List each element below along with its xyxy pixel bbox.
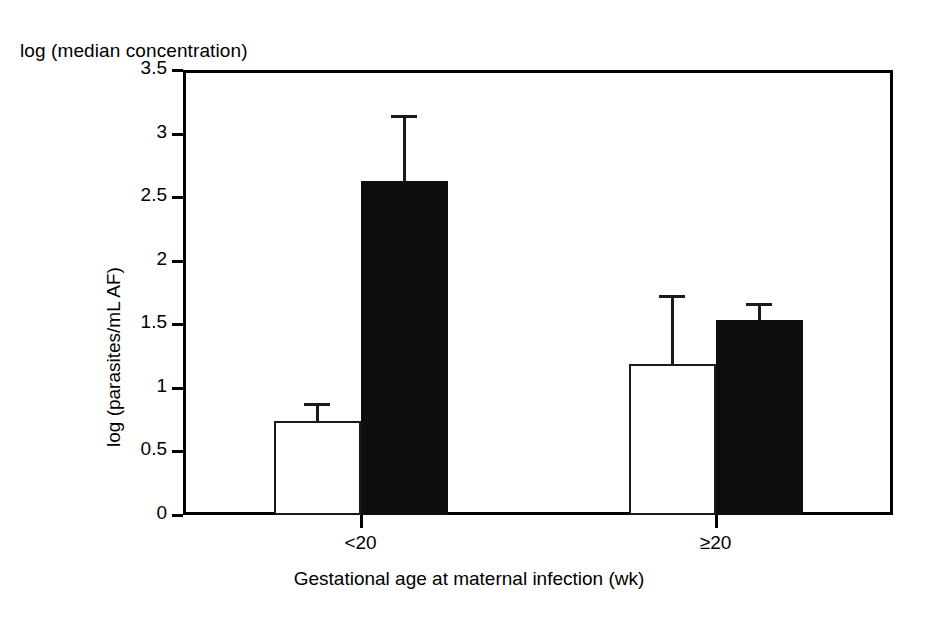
y-tick-label: 1	[156, 375, 167, 397]
y-tick-label: 2.5	[141, 184, 167, 206]
bar-open-<20	[274, 421, 361, 515]
bar-filled-<20	[361, 181, 448, 515]
y-axis-label: log (parasites/mL AF)	[103, 147, 125, 447]
errorbar-cap	[746, 303, 772, 306]
bar-open-≥20	[629, 364, 716, 515]
y-tick-mark	[172, 514, 183, 517]
errorbar-stem	[671, 295, 674, 364]
y-tick-mark	[172, 69, 183, 72]
y-tick-label: 3.5	[141, 57, 167, 79]
errorbar-cap	[659, 295, 685, 298]
bar-filled-≥20	[716, 320, 803, 515]
bar-chart-figure: log (median concentration) log (parasite…	[0, 0, 938, 620]
errorbar-cap	[304, 403, 330, 406]
y-tick-label: 0.5	[141, 438, 167, 460]
x-tick-label: ≥20	[700, 532, 732, 554]
y-tick-mark	[172, 260, 183, 263]
x-tick-label: <20	[344, 532, 376, 554]
x-tick-mark	[715, 515, 718, 528]
errorbar-stem	[403, 115, 406, 181]
x-axis-label: Gestational age at maternal infection (w…	[0, 568, 938, 590]
chart-title: log (median concentration)	[20, 40, 248, 62]
y-tick-mark	[172, 387, 183, 390]
y-tick-label: 3	[156, 121, 167, 143]
y-tick-mark	[172, 323, 183, 326]
y-tick-label: 0	[156, 502, 167, 524]
y-tick-mark	[172, 133, 183, 136]
x-tick-mark	[360, 515, 363, 528]
y-tick-mark	[172, 450, 183, 453]
y-tick-label: 1.5	[141, 311, 167, 333]
y-tick-mark	[172, 196, 183, 199]
plot-area	[183, 70, 893, 515]
y-tick-label: 2	[156, 248, 167, 270]
errorbar-cap	[391, 115, 417, 118]
